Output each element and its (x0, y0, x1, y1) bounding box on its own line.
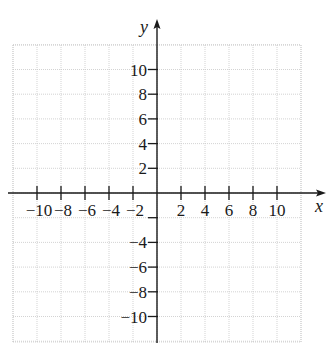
y-tick-label: −4 (129, 233, 148, 252)
y-tick-label: 4 (139, 135, 148, 154)
coordinate-plane: −10−8−6−4−2246810108642−4−6−8−10 x y (0, 0, 326, 347)
y-tick-label: −6 (129, 258, 147, 277)
y-tick-label: −8 (129, 283, 147, 302)
y-tick-label: −10 (120, 308, 147, 327)
x-tick-label: 4 (201, 201, 210, 220)
x-tick-label: −10 (26, 201, 53, 220)
x-tick-label: −4 (102, 201, 121, 220)
x-tick-label: −8 (54, 201, 72, 220)
y-tick-label: 2 (139, 159, 148, 178)
x-tick-label: 2 (177, 201, 186, 220)
x-tick-label: −6 (78, 201, 96, 220)
y-tick-label: 8 (139, 85, 148, 104)
y-axis-label: y (138, 17, 148, 37)
x-tick-label: −2 (126, 201, 144, 220)
x-tick-label: 6 (225, 201, 234, 220)
x-axis-label: x (314, 196, 323, 216)
y-tick-label: 10 (130, 61, 147, 80)
x-tick-label: 10 (269, 201, 286, 220)
y-tick-label: 6 (139, 110, 148, 129)
x-tick-label: 8 (249, 201, 258, 220)
